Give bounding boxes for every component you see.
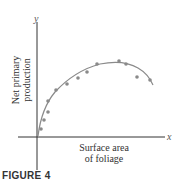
y-axis-label: Net primary production [10,56,32,105]
data-point [65,82,69,86]
data-point [148,78,152,82]
data-point [54,88,58,92]
data-point [39,127,43,131]
svg-text:production: production [21,58,32,101]
fit-curve [38,62,153,136]
data-point [76,76,80,80]
data-point [95,62,99,66]
x-axis-variable: x [166,131,172,142]
x-axis-label: Surface area of foliage [79,142,129,164]
data-point [135,75,139,79]
svg-text:Net primary: Net primary [10,56,21,105]
figure-caption: FIGURE 4 [2,170,51,181]
data-point [117,59,121,63]
data-point [42,118,46,122]
chart-canvas: y x Net primary production Surface area … [0,0,184,183]
data-point [46,110,50,114]
svg-text:of foliage: of foliage [85,153,124,164]
data-point [85,70,89,74]
data-point [124,62,128,66]
y-axis-variable: y [33,13,39,24]
data-point [46,99,50,103]
data-points [39,59,152,131]
svg-text:Surface area: Surface area [79,142,129,153]
